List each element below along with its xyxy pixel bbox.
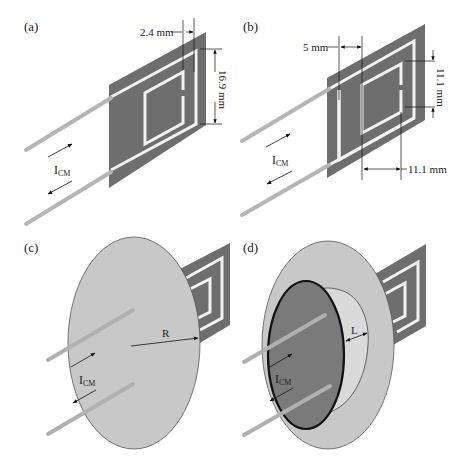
dim-16.9mm: 16.9 mm xyxy=(217,70,229,110)
dim-11.1mm-vertical: 11.1 mm xyxy=(435,68,447,107)
panel-c-label: (c) xyxy=(24,240,38,255)
current-label: ICM xyxy=(54,163,70,178)
panel-b-label: (b) xyxy=(243,19,258,34)
dim-11.1mm-horizontal: 11.1 mm xyxy=(408,163,447,175)
dim-5mm: 5 mm xyxy=(303,41,329,53)
radius-label: R xyxy=(162,327,170,339)
panel-c: (c) ICM R xyxy=(24,237,230,449)
panel-a-label: (a) xyxy=(24,19,38,34)
panel-d: (d) ICM L xyxy=(243,240,426,449)
current-arrow-in xyxy=(48,144,72,157)
figure: (a) ICM 2.4 mm 16.9 mm (b) xyxy=(0,0,469,462)
wire-lower xyxy=(242,165,329,215)
panel-d-label: (d) xyxy=(243,240,258,255)
wire-upper xyxy=(242,89,329,141)
current-label: ICM xyxy=(272,153,288,168)
wire-lower xyxy=(26,172,111,224)
current-arrow-in xyxy=(266,134,290,147)
metal-disk xyxy=(68,237,200,449)
current-arrow-out xyxy=(267,171,292,184)
inner-cap xyxy=(268,281,344,429)
panel-b: (b) ICM 5 mm 11.1 mm 11.1 mm xyxy=(242,19,447,215)
length-label: L xyxy=(351,324,358,336)
wire-upper xyxy=(26,98,111,150)
dim-2.4mm: 2.4 mm xyxy=(140,26,174,38)
panel-a: (a) ICM 2.4 mm 16.9 mm xyxy=(24,18,229,224)
current-arrow-out xyxy=(48,181,72,194)
